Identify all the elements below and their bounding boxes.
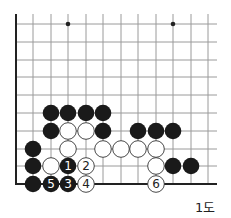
black-stone: 1 xyxy=(60,158,77,175)
move-number: 4 xyxy=(82,177,90,191)
move-number: 3 xyxy=(64,177,72,191)
black-stone xyxy=(43,123,60,140)
black-stone: 5 xyxy=(43,176,60,193)
black-stone xyxy=(60,105,77,122)
white-stone xyxy=(60,141,77,158)
black-stone xyxy=(130,123,147,140)
star-point xyxy=(171,22,176,27)
white-stone xyxy=(60,123,77,140)
black-stone xyxy=(165,158,182,175)
black-stone xyxy=(43,105,60,122)
black-stone xyxy=(165,123,182,140)
white-stone: 6 xyxy=(148,176,165,193)
go-board: 125346 xyxy=(0,0,231,218)
black-stone xyxy=(148,123,165,140)
black-stone xyxy=(95,123,112,140)
white-stone xyxy=(43,158,60,175)
move-number: 2 xyxy=(82,159,90,173)
black-stone: 3 xyxy=(60,176,77,193)
white-stone xyxy=(78,123,95,140)
black-stone xyxy=(25,141,42,158)
white-stone: 2 xyxy=(78,158,95,175)
white-stone xyxy=(113,141,130,158)
move-number: 5 xyxy=(47,177,55,191)
move-number: 1 xyxy=(64,159,72,173)
white-stone xyxy=(148,141,165,158)
diagram-caption: 1도 xyxy=(195,197,215,216)
white-stone xyxy=(148,158,165,175)
black-stone xyxy=(25,176,42,193)
white-stone: 4 xyxy=(78,176,95,193)
black-stone xyxy=(95,105,112,122)
black-stone xyxy=(78,105,95,122)
white-stone xyxy=(130,141,147,158)
black-stone xyxy=(183,158,200,175)
star-point xyxy=(66,22,71,27)
black-stone xyxy=(25,158,42,175)
move-number: 6 xyxy=(152,177,160,191)
white-stone xyxy=(95,141,112,158)
